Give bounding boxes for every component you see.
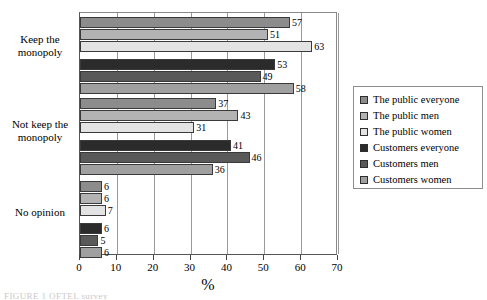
x-tick-20	[153, 255, 154, 260]
bar[interactable]	[80, 17, 290, 28]
bar[interactable]	[80, 247, 102, 258]
bar-value-label: 49	[263, 72, 273, 82]
bar[interactable]	[80, 122, 194, 133]
bar[interactable]	[80, 41, 312, 52]
bar[interactable]	[80, 29, 268, 40]
gridline-70	[338, 13, 339, 254]
bar-value-label: 63	[314, 42, 324, 52]
legend-swatch-icon	[360, 96, 368, 104]
bar[interactable]	[80, 98, 216, 109]
x-tick-label-50: 50	[248, 261, 278, 273]
bar-value-label: 6	[104, 194, 109, 204]
bar[interactable]	[80, 110, 238, 121]
bar-value-label: 43	[240, 111, 250, 121]
legend-label: The public everyone	[373, 94, 459, 106]
x-tick-label-0: 0	[64, 261, 94, 273]
bar-group-1: 374331414636	[80, 98, 336, 175]
category-label-line2: monopoly	[2, 46, 78, 59]
bar-row[interactable]: 6	[80, 247, 336, 258]
x-tick-30	[190, 255, 191, 260]
bar[interactable]	[80, 193, 102, 204]
x-tick-label-70: 70	[322, 261, 352, 273]
bar-row[interactable]: 36	[80, 164, 336, 175]
bar[interactable]	[80, 205, 106, 216]
category-label-2: No opinion	[2, 206, 78, 219]
legend-item-3[interactable]: Customers everyone	[360, 140, 478, 156]
bar[interactable]	[80, 223, 102, 234]
x-tick-label-60: 60	[285, 261, 315, 273]
legend: The public everyoneThe public menThe pub…	[353, 86, 483, 189]
bar-row[interactable]: 63	[80, 41, 336, 52]
bar-row[interactable]: 43	[80, 110, 336, 121]
x-tick-50	[263, 255, 264, 260]
bar-value-label: 5	[100, 236, 105, 246]
legend-item-0[interactable]: The public everyone	[360, 92, 478, 108]
bar-value-label: 57	[292, 18, 302, 28]
legend-item-2[interactable]: The public women	[360, 124, 478, 140]
bar[interactable]	[80, 140, 231, 151]
bar[interactable]	[80, 83, 294, 94]
bar-row[interactable]: 6	[80, 193, 336, 204]
bar[interactable]	[80, 235, 98, 246]
legend-swatch-icon	[360, 144, 368, 152]
chart-figure: 575163534958374331414636667656 Keep them…	[0, 0, 487, 300]
bar-row[interactable]: 57	[80, 17, 336, 28]
bar-row[interactable]: 5	[80, 235, 336, 246]
plot-area: 575163534958374331414636667656	[79, 12, 337, 255]
bar[interactable]	[80, 59, 275, 70]
bar-value-label: 6	[104, 224, 109, 234]
legend-item-1[interactable]: The public men	[360, 108, 478, 124]
legend-swatch-icon	[360, 176, 368, 184]
bar-row[interactable]: 6	[80, 181, 336, 192]
legend-swatch-icon	[360, 112, 368, 120]
bar-group-0: 575163534958	[80, 17, 336, 94]
category-label-0: Keep themonopoly	[2, 33, 78, 59]
bar[interactable]	[80, 181, 102, 192]
figure-caption: FIGURE 1 OFTEL survey	[4, 291, 304, 300]
legend-swatch-icon	[360, 160, 368, 168]
bar-value-label: 53	[277, 60, 287, 70]
legend-label: Customers women	[373, 174, 451, 186]
bar-row[interactable]: 31	[80, 122, 336, 133]
x-tick-label-30: 30	[175, 261, 205, 273]
category-label-line1: Keep the	[2, 33, 78, 46]
legend-item-4[interactable]: Customers men	[360, 156, 478, 172]
bar-value-label: 41	[233, 141, 243, 151]
bar-row[interactable]: 49	[80, 71, 336, 82]
x-tick-60	[300, 255, 301, 260]
x-tick-label-20: 20	[138, 261, 168, 273]
bar-row[interactable]: 53	[80, 59, 336, 70]
x-tick-label-40: 40	[211, 261, 241, 273]
x-tick-0	[79, 255, 80, 260]
bar-row[interactable]: 58	[80, 83, 336, 94]
legend-label: The public men	[373, 110, 439, 122]
bar-value-label: 58	[296, 84, 306, 94]
bar-row[interactable]: 46	[80, 152, 336, 163]
bar-row[interactable]: 37	[80, 98, 336, 109]
bar-value-label: 51	[270, 30, 280, 40]
category-label-line1: No opinion	[2, 206, 78, 219]
bar[interactable]	[80, 152, 250, 163]
legend-label: Customers men	[373, 158, 439, 170]
x-tick-70	[337, 255, 338, 260]
legend-label: The public women	[373, 126, 452, 138]
bar-row[interactable]: 41	[80, 140, 336, 151]
x-tick-label-10: 10	[101, 261, 131, 273]
bar-value-label: 6	[104, 182, 109, 192]
bar-row[interactable]: 6	[80, 223, 336, 234]
category-label-1: Not keep themonopoly	[2, 118, 78, 144]
bar-group-2: 667656	[80, 181, 336, 258]
legend-item-5[interactable]: Customers women	[360, 172, 478, 188]
bar-value-label: 6	[104, 248, 109, 258]
bar-value-label: 7	[108, 206, 113, 216]
category-label-line2: monopoly	[2, 131, 78, 144]
bar[interactable]	[80, 164, 213, 175]
legend-label: Customers everyone	[373, 142, 459, 154]
category-label-line1: Not keep the	[2, 118, 78, 131]
bar-value-label: 31	[196, 123, 206, 133]
bar-row[interactable]: 7	[80, 205, 336, 216]
bar[interactable]	[80, 71, 261, 82]
bar-row[interactable]: 51	[80, 29, 336, 40]
bar-value-label: 37	[218, 99, 228, 109]
legend-swatch-icon	[360, 128, 368, 136]
